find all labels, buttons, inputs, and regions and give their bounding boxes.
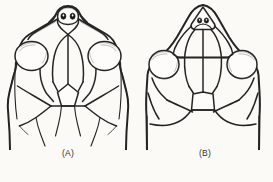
supraocular-left-a <box>15 42 48 71</box>
interparietal-scale-b <box>192 92 215 110</box>
interparietal-scale-a <box>58 84 79 106</box>
head-diagram-a <box>0 0 136 150</box>
figure-caption-a: (A) <box>0 148 136 158</box>
figure-panel-a <box>0 0 136 150</box>
head-diagram-b <box>137 0 273 150</box>
frontal-scales-b-divided <box>173 30 233 93</box>
figure-caption-b: (B) <box>137 148 273 158</box>
frontal-scale-a <box>53 35 84 85</box>
nuchal-scales-a <box>20 106 117 146</box>
supraocular-right-a <box>88 42 121 71</box>
cut-off-body-text <box>0 173 273 182</box>
figure-panel-b <box>137 0 273 150</box>
nuchal-scales-b <box>147 110 259 150</box>
illustration-plate: (A) (B) <box>0 0 273 182</box>
caption-row: (A) (B) <box>0 148 273 170</box>
